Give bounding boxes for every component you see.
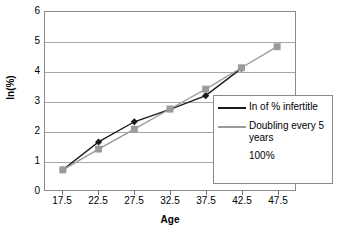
data-point-square: [274, 43, 281, 50]
data-point-square: [95, 146, 102, 153]
data-point-square: [238, 64, 245, 71]
x-tick-label: 22.5: [78, 196, 118, 206]
legend-item-1[interactable]: Doubling every 5 years: [218, 120, 328, 144]
legend-annotation: 100%: [249, 150, 328, 162]
x-tick-label: 42.5: [222, 196, 262, 206]
y-axis-tick-labels: 0123456: [18, 0, 40, 233]
x-tick-label: 37.5: [186, 196, 226, 206]
y-tick-label: 2: [22, 126, 40, 136]
legend-key-square-icon: [218, 121, 246, 133]
x-axis-tick-labels: 17.522.527.532.537.542.547.5: [44, 196, 296, 210]
y-tick-label: 3: [22, 96, 40, 106]
legend-label-0: In of % infertitle: [249, 101, 318, 113]
y-tick-label: 5: [22, 36, 40, 46]
x-tick-label: 47.5: [258, 196, 298, 206]
chart-legend: In of % infertitle Doubling every 5 year…: [213, 95, 333, 184]
x-tick-label: 27.5: [114, 196, 154, 206]
legend-item-0[interactable]: In of % infertitle: [218, 101, 328, 114]
data-point-square: [59, 166, 66, 173]
data-point-square: [202, 86, 209, 93]
data-point-square: [131, 126, 138, 133]
y-tick-label: 6: [22, 6, 40, 16]
x-tick-label: 32.5: [150, 196, 190, 206]
y-axis-title: ln(%): [5, 60, 16, 116]
x-tick-label: 17.5: [42, 196, 82, 206]
chart-container: ln(%) 0123456 17.522.527.532.537.542.547…: [0, 0, 345, 233]
legend-label-1: Doubling every 5 years: [249, 120, 328, 144]
x-axis-title: Age: [44, 214, 296, 225]
y-tick-label: 4: [22, 66, 40, 76]
data-point-square: [167, 106, 174, 113]
legend-key-diamond-icon: [218, 102, 246, 114]
data-point-diamond: [131, 118, 138, 125]
y-tick-label: 0: [22, 186, 40, 196]
y-tick-label: 1: [22, 156, 40, 166]
